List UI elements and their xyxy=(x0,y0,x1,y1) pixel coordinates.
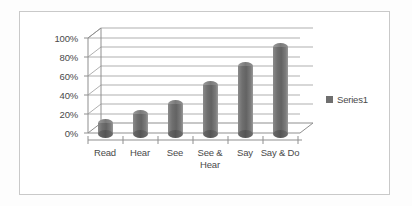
x-axis-label-see: See xyxy=(155,147,195,159)
y-axis-tick-20: 20% xyxy=(44,109,78,120)
chart-image: 100% 80% 60% 40% 20% 0% xyxy=(0,0,412,206)
bar-body xyxy=(273,47,288,134)
bar-bottom-cap xyxy=(133,130,148,138)
x-axis-label-hear: Hear xyxy=(120,147,160,159)
y-axis-tick-40: 40% xyxy=(44,90,78,101)
chart-plot-area: 100% 80% 60% 40% 20% 0% xyxy=(0,0,412,206)
bar-bottom-cap xyxy=(238,130,253,138)
x-axis-label-see-and-hear: See & Hear xyxy=(190,147,230,170)
legend-entry-series1: Series1 xyxy=(337,94,368,105)
bar-bottom-cap xyxy=(168,130,183,138)
bar-body xyxy=(203,85,218,134)
bar-hear[interactable] xyxy=(133,110,148,138)
y-axis-tick-100: 100% xyxy=(44,33,78,44)
x-axis-label-read: Read xyxy=(85,147,125,159)
bar-read[interactable] xyxy=(98,119,113,138)
x-axis-label-say-and-do: Say & Do xyxy=(260,147,300,159)
x-axis-label-say: Say xyxy=(225,147,265,159)
bar-body xyxy=(238,66,253,134)
square-marker-icon xyxy=(326,96,333,103)
chart-legend[interactable]: Series1 xyxy=(326,94,368,105)
bar-see-and-hear[interactable] xyxy=(203,81,218,138)
bar-bottom-cap xyxy=(203,130,218,138)
bar-bottom-cap xyxy=(98,130,113,138)
bar-see[interactable] xyxy=(168,100,183,138)
bar-bottom-cap xyxy=(273,130,288,138)
y-axis-tick-0: 0% xyxy=(44,128,78,139)
y-axis-tick-80: 80% xyxy=(44,52,78,63)
y-axis-tick-60: 60% xyxy=(44,71,78,82)
bar-say-and-do[interactable] xyxy=(273,43,288,138)
bar-say[interactable] xyxy=(238,62,253,138)
